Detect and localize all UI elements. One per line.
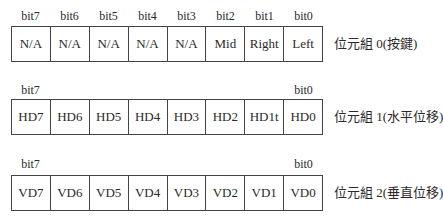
bit-cell: N/A bbox=[12, 27, 51, 61]
bit-label: bit6 bbox=[50, 9, 89, 23]
bit-label: bit7 bbox=[11, 9, 50, 23]
bit-label: bit5 bbox=[89, 9, 128, 23]
byte1-register: HD7 HD6 HD5 HD4 HD3 HD2 HD1t HD0 bbox=[11, 99, 323, 135]
bit-cell: HD0 bbox=[284, 100, 322, 134]
bit-label: bit1 bbox=[245, 9, 284, 23]
byte2-caption: 位元組 2(垂直位移) bbox=[334, 185, 443, 201]
bit-cell: Left bbox=[284, 27, 322, 61]
bit-cell: HD5 bbox=[90, 100, 129, 134]
bit-label: bit3 bbox=[167, 9, 206, 23]
bit-cell: HD3 bbox=[168, 100, 207, 134]
bit-cell: HD7 bbox=[12, 100, 51, 134]
bit-label: bit7 bbox=[11, 157, 50, 171]
byte0-register: N/A N/A N/A N/A N/A Mid Right Left bbox=[11, 26, 323, 62]
bit-label: bit2 bbox=[206, 9, 245, 23]
bit-cell: VD7 bbox=[12, 176, 51, 210]
bit-label: bit0 bbox=[284, 83, 323, 97]
bit-label: bit0 bbox=[284, 157, 323, 171]
bit-cell: Right bbox=[245, 27, 284, 61]
bit-cell: N/A bbox=[168, 27, 207, 61]
bit-label: bit7 bbox=[11, 83, 50, 97]
bit-cell: VD3 bbox=[168, 176, 207, 210]
bit-cell: N/A bbox=[90, 27, 129, 61]
byte0-bit-labels: bit7 bit6 bit5 bit4 bit3 bit2 bit1 bit0 bbox=[11, 9, 323, 23]
bit-cell: N/A bbox=[129, 27, 168, 61]
bit-cell: VD6 bbox=[51, 176, 90, 210]
bit-cell: VD5 bbox=[90, 176, 129, 210]
bit-cell: Mid bbox=[206, 27, 245, 61]
bit-cell: VD2 bbox=[206, 176, 245, 210]
byte1-caption: 位元組 1(水平位移) bbox=[334, 109, 443, 125]
bit-label: bit4 bbox=[128, 9, 167, 23]
bit-cell: VD0 bbox=[284, 176, 322, 210]
bit-cell: HD1t bbox=[245, 100, 284, 134]
bit-cell: N/A bbox=[51, 27, 90, 61]
byte1-bit-labels: bit7 bit0 bbox=[11, 83, 323, 97]
bit-cell: HD4 bbox=[129, 100, 168, 134]
byte2-bit-labels: bit7 bit0 bbox=[11, 157, 323, 171]
bit-cell: VD1 bbox=[245, 176, 284, 210]
bit-cell: HD6 bbox=[51, 100, 90, 134]
bit-cell: VD4 bbox=[129, 176, 168, 210]
byte0-caption: 位元組 0(按鍵) bbox=[334, 36, 417, 52]
bit-label: bit0 bbox=[284, 9, 323, 23]
bit-cell: HD2 bbox=[206, 100, 245, 134]
byte2-register: VD7 VD6 VD5 VD4 VD3 VD2 VD1 VD0 bbox=[11, 175, 323, 211]
